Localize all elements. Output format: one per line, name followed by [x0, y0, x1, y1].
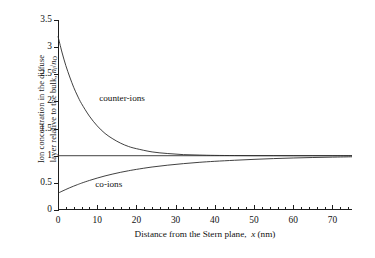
x-axis-symbol: x: [251, 229, 255, 239]
y-tick-label: 0: [47, 205, 52, 214]
x-axis-title: Distance from the Stern plane, x (nm): [58, 230, 352, 239]
x-tick-label: 60: [289, 216, 298, 225]
y-tick-label: 1.5: [40, 124, 52, 133]
y-axis-title-container: Ion concentration in the diffuse layer r…: [0, 0, 42, 215]
x-tick-label: 70: [328, 216, 337, 225]
co-ions-label: co-ions: [95, 180, 122, 189]
y-axis-symbol-denominator: n: [49, 60, 58, 64]
ion-concentration-chart: Ion concentration in the diffuse layer r…: [0, 0, 375, 258]
y-axis-slash: /: [49, 65, 58, 67]
y-tick-mark: [54, 210, 59, 211]
y-tick-label: 1: [47, 151, 52, 160]
x-tick-label: 20: [132, 216, 141, 225]
y-tick-label: 2.5: [40, 70, 52, 79]
x-tick-label: 30: [171, 216, 180, 225]
counter-ions-label: counter-ions: [99, 94, 145, 103]
plot-area: 00.511.522.533.5 010203040506070 counter…: [58, 20, 352, 210]
x-tick-label: 50: [249, 216, 258, 225]
x-tick-label: 10: [93, 216, 102, 225]
y-tick-label: 3: [47, 42, 52, 51]
y-tick-label: 0.5: [40, 178, 52, 187]
x-axis-unit: (nm): [258, 229, 276, 239]
x-tick-label: 0: [56, 216, 61, 225]
x-tick-label: 40: [210, 216, 219, 225]
y-tick-label: 2: [47, 97, 52, 106]
y-tick-label: 3.5: [40, 15, 52, 24]
x-axis-title-lead: Distance from the Stern plane,: [135, 229, 247, 239]
